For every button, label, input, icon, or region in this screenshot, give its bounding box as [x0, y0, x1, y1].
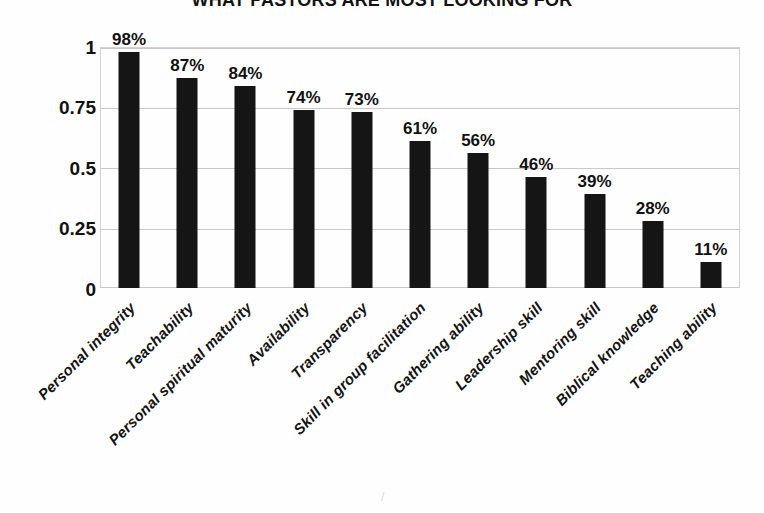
- chart-title-clip: WHAT PASTORS ARE MOST LOOKING FOR: [0, 0, 764, 11]
- bar-group: 73%: [333, 47, 391, 288]
- bar-value-label: 74%: [287, 89, 321, 106]
- bar-value-label: 46%: [519, 156, 553, 173]
- scan-artifact: /: [381, 492, 386, 503]
- bar: [177, 78, 198, 288]
- bar-group: 87%: [158, 47, 216, 288]
- bar-value-label: 39%: [578, 173, 612, 190]
- bar-value-label: 98%: [112, 31, 146, 48]
- bar: [351, 112, 372, 288]
- bar-group: 28%: [624, 47, 682, 288]
- bar: [700, 262, 721, 289]
- y-axis-tick-0.75: 0.75: [22, 98, 96, 117]
- bar: [409, 141, 430, 288]
- x-axis-label: Biblical knowledge: [552, 296, 665, 409]
- x-axis-label: Personal integrity: [34, 296, 141, 403]
- chart-title: WHAT PASTORS ARE MOST LOOKING FOR: [0, 0, 764, 11]
- bar: [235, 86, 256, 288]
- y-axis-tick-0.5: 0.5: [22, 159, 96, 178]
- y-axis-tick-1: 1: [22, 38, 96, 57]
- bar-value-label: 61%: [403, 120, 437, 137]
- bar-value-label: 11%: [694, 241, 727, 258]
- bar-value-label: 73%: [345, 91, 379, 108]
- bar: [293, 110, 314, 288]
- bar-group: 98%: [100, 47, 158, 288]
- bar-group: 46%: [507, 47, 565, 288]
- x-axis-labels: Personal integrityTeachabilityPersonal s…: [100, 288, 740, 513]
- y-axis-tick-0: 0: [22, 280, 96, 299]
- bar: [642, 221, 663, 288]
- y-axis-tick-0.25: 0.25: [22, 219, 96, 238]
- bars-layer: 98%87%84%74%73%61%56%46%39%28%11%: [100, 47, 740, 288]
- bar-value-label: 28%: [636, 200, 670, 217]
- bar: [526, 177, 547, 288]
- bar-group: 84%: [216, 47, 274, 288]
- bar-chart: WHAT PASTORS ARE MOST LOOKING FOR 1 0.75…: [0, 0, 764, 513]
- bar: [119, 52, 140, 288]
- bar-value-label: 56%: [461, 132, 495, 149]
- bar-group: 61%: [391, 47, 449, 288]
- bar-group: 39%: [565, 47, 623, 288]
- bar-group: 74%: [275, 47, 333, 288]
- bar: [584, 194, 605, 288]
- bar-value-label: 84%: [228, 65, 262, 82]
- bar-group: 56%: [449, 47, 507, 288]
- bar: [468, 153, 489, 288]
- bar-value-label: 87%: [170, 57, 204, 74]
- bar-group: 11%: [682, 47, 740, 288]
